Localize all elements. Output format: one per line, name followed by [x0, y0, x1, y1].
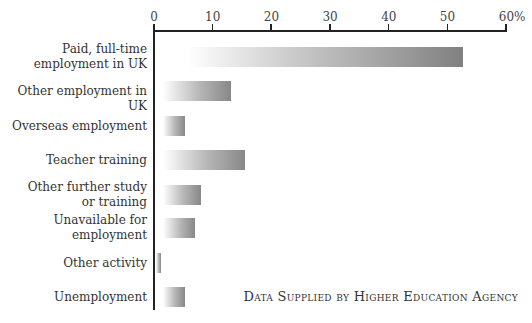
x-axis-line: [153, 30, 507, 32]
category-label: Other activity: [63, 256, 147, 271]
bar: [163, 287, 185, 307]
x-axis-tick-label: 50: [440, 10, 455, 24]
bar: [163, 150, 245, 170]
category-label: Paid, full-time employment in UK: [34, 42, 147, 72]
category-label: Unemployment: [54, 290, 147, 305]
category-label: Overseas employment: [12, 119, 147, 134]
x-axis-tick-label: 0: [150, 10, 158, 24]
x-axis-tick-label: 20: [264, 10, 279, 24]
bar: [163, 218, 195, 238]
x-axis-tick-label: 10: [205, 10, 220, 24]
category-label: Unavailable for employment: [53, 213, 147, 243]
x-axis-tick-label: 60%: [499, 10, 526, 24]
category-label: Other further study or training: [28, 180, 147, 210]
source-note: Data Supplied by Higher Education Agency: [243, 289, 518, 304]
bar: [156, 253, 161, 273]
category-label: Teacher training: [46, 153, 147, 168]
bar: [163, 81, 231, 101]
y-axis-line: [153, 30, 155, 310]
bar: [163, 116, 185, 136]
x-axis-tick-label: 30: [322, 10, 337, 24]
bar: [163, 185, 201, 205]
category-label: Other employment in UK: [0, 84, 147, 114]
bar: [163, 47, 463, 67]
horizontal-bar-chart: 0102030405060% Paid, full-time employmen…: [0, 0, 532, 323]
x-axis-tick-label: 40: [381, 10, 396, 24]
